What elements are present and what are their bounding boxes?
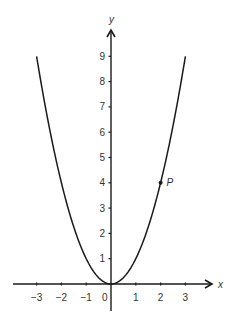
axes: x y 0 (13, 14, 224, 311)
x-tick-label: −3 (31, 292, 43, 303)
x-tick-label: −1 (80, 292, 92, 303)
point-label: P (167, 177, 174, 188)
origin-label: 0 (102, 292, 108, 303)
x-tick-label: 2 (158, 292, 164, 303)
parabola-chart: x y 0 −3−2−1123123456789 P (0, 0, 232, 321)
ticks: −3−2−1123123456789 (31, 51, 189, 303)
x-tick-label: −2 (56, 292, 68, 303)
y-tick-label: 6 (99, 127, 105, 138)
x-axis-label: x (217, 279, 224, 290)
annotations: P (159, 177, 174, 188)
x-tick-label: 1 (133, 292, 139, 303)
y-axis-label: y (108, 14, 115, 25)
y-tick-label: 2 (99, 228, 105, 239)
x-tick-label: 3 (183, 292, 189, 303)
y-tick-label: 9 (99, 51, 105, 62)
y-tick-label: 5 (99, 152, 105, 163)
point-marker (159, 181, 163, 185)
y-tick-label: 1 (99, 253, 105, 264)
y-tick-label: 8 (99, 76, 105, 87)
y-tick-label: 3 (99, 203, 105, 214)
y-tick-label: 7 (99, 101, 105, 112)
y-tick-label: 4 (99, 177, 105, 188)
